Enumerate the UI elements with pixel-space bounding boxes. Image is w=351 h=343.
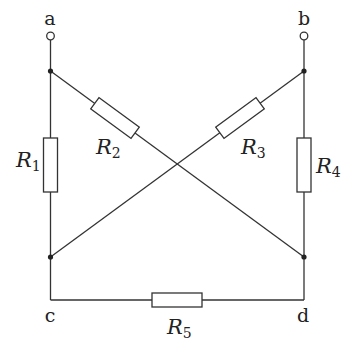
circuit-diagram: a b c d R1 R2 R3 R4 R5 xyxy=(0,0,351,343)
resistor-r1 xyxy=(44,138,58,192)
resistor-r3 xyxy=(216,98,265,139)
label-r4: R4 xyxy=(315,154,341,180)
node-label-d: d xyxy=(297,304,309,326)
terminal-a: a xyxy=(44,7,55,40)
terminal-b-circle xyxy=(300,32,308,40)
label-r1: R1 xyxy=(15,148,41,174)
label-r2: R2 xyxy=(95,135,121,161)
resistor-r5 xyxy=(152,293,202,307)
junction-c xyxy=(48,254,53,259)
node-label-a: a xyxy=(44,7,55,29)
junction-b xyxy=(301,68,306,73)
junction-a xyxy=(48,68,53,73)
terminal-a-circle xyxy=(47,32,55,40)
resistor-r4 xyxy=(297,138,311,192)
junction-d xyxy=(301,254,306,259)
terminal-b: b xyxy=(298,7,310,40)
resistor-r2 xyxy=(91,98,140,139)
node-label-b: b xyxy=(298,7,310,29)
label-r3: R3 xyxy=(240,135,266,161)
node-label-c: c xyxy=(45,304,56,326)
label-r5: R5 xyxy=(166,315,192,341)
